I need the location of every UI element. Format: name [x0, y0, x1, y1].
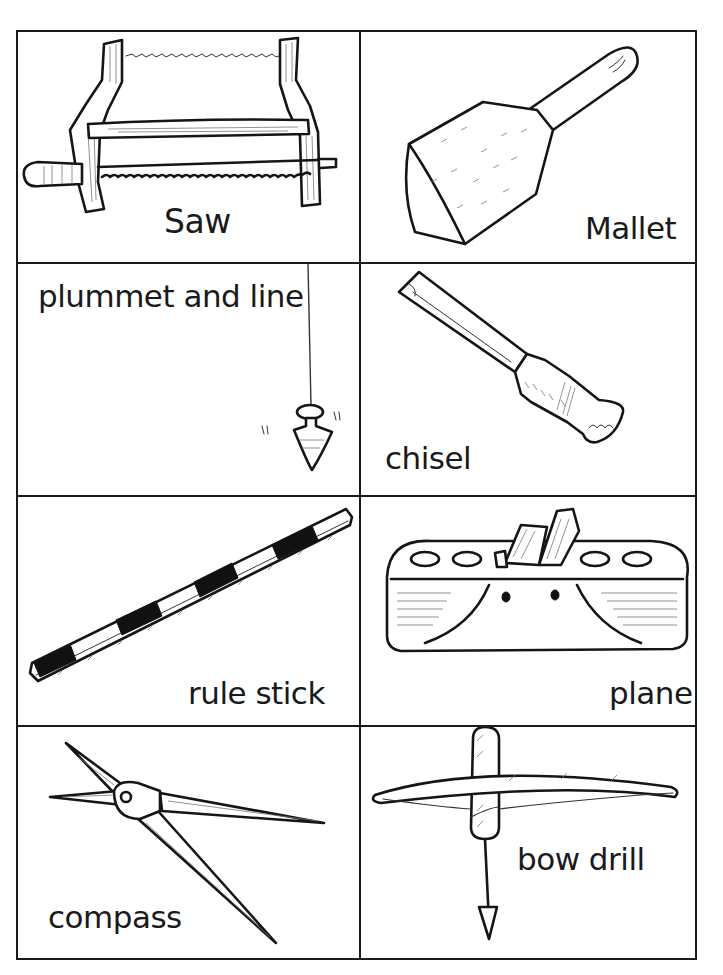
- card-label: plane: [609, 675, 693, 711]
- card-mallet: Mallet: [361, 32, 695, 264]
- card-plummet-and-line: plummet and line: [18, 264, 361, 497]
- card-bow-drill: bow drill: [361, 727, 695, 958]
- card-label: Saw: [164, 202, 231, 241]
- tools-worksheet-grid: Saw Mallet plummet and line: [16, 30, 697, 960]
- card-rule-stick: rule stick: [18, 497, 361, 727]
- card-label: bow drill: [517, 841, 645, 877]
- card-plane: plane: [361, 497, 695, 727]
- card-compass: compass: [18, 727, 361, 958]
- card-label: Mallet: [585, 210, 676, 246]
- card-label: chisel: [385, 440, 471, 476]
- card-saw: Saw: [18, 32, 361, 264]
- card-chisel: chisel: [361, 264, 695, 497]
- card-label: rule stick: [188, 675, 325, 711]
- card-label: plummet and line: [38, 278, 304, 314]
- card-label: compass: [48, 899, 182, 935]
